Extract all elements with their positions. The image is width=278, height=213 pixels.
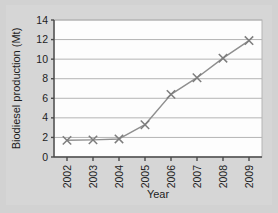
x-tick-label: 2006 — [165, 165, 177, 189]
x-tick-label: 2005 — [139, 165, 151, 189]
y-axis-tick-labels: 02468101214 — [36, 14, 48, 163]
line-chart: 02468101214 2002200320042005200620072008… — [6, 5, 272, 205]
figure-background: 02468101214 2002200320042005200620072008… — [6, 5, 272, 205]
y-tick-label: 8 — [42, 72, 48, 84]
x-axis-title: Year — [147, 188, 170, 200]
y-tick-label: 4 — [42, 111, 48, 123]
plot-area-background — [54, 20, 262, 157]
y-axis-title: Biodiesel production (Mt) — [10, 28, 22, 150]
y-tick-label: 0 — [42, 151, 48, 163]
x-axis-tick-labels: 20022003200420052006200720082009 — [61, 165, 255, 189]
x-tick-label: 2008 — [217, 165, 229, 189]
x-tick-label: 2004 — [113, 165, 125, 189]
x-tick-label: 2003 — [87, 165, 99, 189]
x-tick-label: 2007 — [191, 165, 203, 189]
chart-figure: 02468101214 2002200320042005200620072008… — [0, 0, 278, 213]
y-tick-label: 2 — [42, 131, 48, 143]
y-tick-label: 12 — [36, 33, 48, 45]
y-tick-label: 14 — [36, 14, 48, 26]
y-tick-label: 10 — [36, 53, 48, 65]
x-tick-label: 2009 — [243, 165, 255, 189]
x-tick-label: 2002 — [61, 165, 73, 189]
y-tick-label: 6 — [42, 92, 48, 104]
